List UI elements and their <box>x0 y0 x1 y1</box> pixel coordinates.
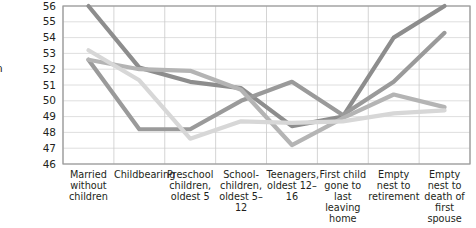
x-axis-tick-label: First child gone to last leaving home <box>317 169 368 224</box>
line-chart: n 4647484950515253545556 Married without… <box>0 0 476 228</box>
x-axis-tick-label: Preschool children, oldest 5 <box>165 169 216 202</box>
x-axis-tick-label: Childbearing <box>114 169 165 180</box>
x-axis-tick-label: Teenagers, oldest 12–16 <box>267 169 318 202</box>
x-axis-tick-label: Empty nest to death of first spouse <box>419 169 470 224</box>
x-axis-tick-label: School-children, oldest 5–12 <box>216 169 267 213</box>
x-axis-tick-label: Empty nest to retirement <box>368 169 419 202</box>
x-axis-tick-label: Married without children <box>63 169 114 202</box>
